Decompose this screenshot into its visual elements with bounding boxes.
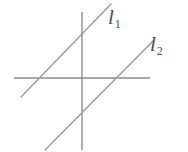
line-label-l1: l1	[108, 7, 121, 30]
figure-background	[0, 0, 188, 152]
line-label-l2-base: l	[150, 32, 156, 56]
figure-canvas: l1 l2	[0, 0, 188, 152]
line-label-l1-base: l	[108, 5, 114, 29]
line-label-l2: l2	[150, 34, 163, 57]
line-label-l1-subscript: 1	[115, 17, 121, 31]
line-figure-svg	[0, 0, 188, 152]
line-label-l2-subscript: 2	[157, 44, 163, 58]
